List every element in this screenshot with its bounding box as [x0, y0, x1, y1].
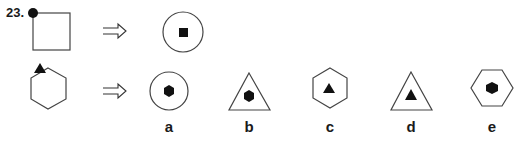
option-b-figure[interactable] — [229, 73, 270, 110]
black-hexagon-icon — [164, 85, 174, 97]
option-c-figure[interactable] — [313, 68, 347, 108]
option-b-label: b — [239, 118, 259, 135]
black-triangle-icon — [405, 89, 417, 100]
example-result-circle — [163, 12, 203, 52]
option-a-figure[interactable] — [150, 72, 188, 110]
example-given-square — [28, 8, 70, 50]
black-hexagon-icon — [486, 82, 498, 94]
black-square-icon — [179, 28, 188, 37]
option-c-label: c — [320, 118, 340, 135]
option-a-label: a — [159, 118, 179, 135]
option-d-figure[interactable] — [391, 72, 432, 110]
problem-given-hexagon — [31, 63, 66, 109]
option-e-figure[interactable] — [471, 70, 513, 106]
puzzle-figure — [0, 0, 532, 145]
option-e-label: e — [482, 118, 502, 135]
black-hexagon-icon — [244, 90, 254, 102]
double-arrow-icon-2 — [103, 84, 126, 98]
double-arrow-icon — [103, 24, 126, 38]
black-triangle-marker-icon — [34, 63, 46, 73]
black-circle-marker-icon — [28, 8, 38, 18]
option-d-label: d — [401, 118, 421, 135]
black-triangle-icon — [323, 83, 335, 93]
